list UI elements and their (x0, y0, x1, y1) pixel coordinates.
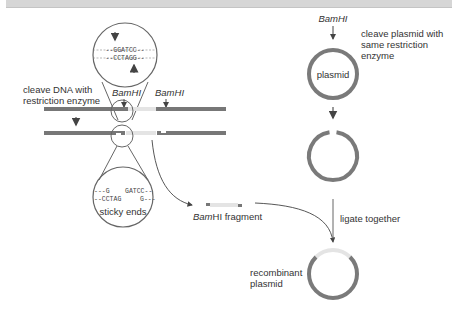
zoom-circle-sticky-ends: ---G GATCC-- --CCTAG G--- sticky ends (93, 146, 156, 227)
cleave-dna-label-1: cleave DNA with (23, 84, 92, 95)
plasmid-recombinant (309, 250, 357, 298)
sticky-top-right: GATCC-- (125, 188, 152, 195)
recognition-bottom-strand: --CCTAGG-- (105, 55, 144, 62)
recombinant-label-1: recombinant (250, 267, 303, 278)
cleave-plasmid-label-3: enzyme (361, 50, 394, 61)
fragment-label: BamHI fragment (193, 211, 263, 222)
sticky-bottom-right: G--- (140, 196, 156, 203)
recognition-top-strand: --GGATCC-- (105, 47, 144, 54)
recombinant-label-2: plasmid (250, 278, 283, 289)
fragment-arrow (152, 140, 192, 205)
ligate-label: ligate together (340, 213, 400, 224)
sticky-bottom-left: --CCTAG (94, 196, 121, 203)
plasmid-cut (309, 132, 357, 180)
plasmid-label: plasmid (317, 69, 350, 80)
plasmid-enzyme-label: BamHI (318, 13, 347, 24)
plasmid-intact: plasmid (309, 50, 357, 98)
ligation-arrow (255, 203, 333, 242)
bamhi-site-label-2: BamHI (155, 87, 184, 98)
zoom-circle-recognition-site: --GGATCC-- --CCTAGG-- (93, 23, 157, 120)
cleave-plasmid-label-1: cleave plasmid with (361, 28, 443, 39)
cloning-diagram: --GGATCC-- --CCTAGG-- cleave DNA with re… (0, 0, 452, 322)
cleave-dna-label-2: restriction enzyme (23, 95, 100, 106)
cleave-plasmid-label-2: same restriction (361, 39, 428, 50)
bamhi-fragment (206, 203, 242, 207)
bamhi-site-label-1: BamHI (112, 87, 141, 98)
sticky-ends-caption: sticky ends (100, 206, 147, 217)
sticky-top-left: ---G (94, 188, 110, 195)
dna-cut (44, 125, 226, 147)
